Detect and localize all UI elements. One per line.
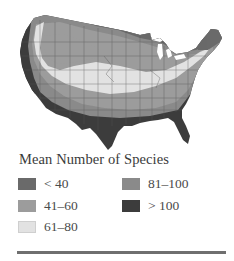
legend-title: Mean Number of Species <box>19 151 169 168</box>
species-map <box>0 0 234 150</box>
legend-item-81-100: 81–100 <box>122 177 189 191</box>
legend-label: < 40 <box>44 176 69 192</box>
legend-label: 81–100 <box>148 176 189 192</box>
divider-line <box>17 251 226 254</box>
legend-item-41-60: 41–60 <box>18 199 78 213</box>
legend-label: 61–80 <box>44 219 78 235</box>
swatch-61-80 <box>18 221 36 233</box>
swatch-lt40 <box>18 178 36 190</box>
swatch-41-60 <box>18 200 36 212</box>
legend-item-61-80: 61–80 <box>18 220 78 234</box>
legend-item-lt40: < 40 <box>18 177 69 191</box>
legend-label: 41–60 <box>44 198 78 214</box>
legend-item-gt100: > 100 <box>122 199 179 213</box>
legend-label: > 100 <box>148 198 179 214</box>
swatch-gt100 <box>122 200 140 212</box>
us-map-graphic <box>0 0 234 150</box>
swatch-81-100 <box>122 178 140 190</box>
